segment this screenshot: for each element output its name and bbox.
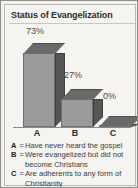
legend-item-c: C = Are adherents to any form of Christi…: [11, 169, 135, 188]
value-label-a: 73%: [26, 26, 44, 36]
value-label-b: 27%: [64, 70, 82, 80]
bar-a: [23, 53, 55, 127]
category-axis-labels: A B C: [9, 128, 135, 141]
legend-separator-c: =: [18, 169, 25, 178]
chart-inner-frame: Status of Evangelization 73% 27%: [4, 4, 136, 186]
bar-b-side-face: [93, 99, 103, 127]
legend-text-a: Have never heard the gospel: [25, 141, 135, 150]
value-label-c: 0%: [103, 91, 116, 101]
legend-text-b: Were evangelized but did not become Chri…: [25, 150, 135, 169]
chart-legend: A = Have never heard the gospel B = Were…: [11, 141, 135, 188]
legend-key-c: C: [11, 169, 18, 178]
category-label-c: C: [104, 128, 122, 138]
legend-text-c: Are adherents to any form of Christianit…: [25, 169, 135, 188]
bar-b-front-face: [61, 99, 93, 127]
category-label-a: A: [28, 128, 46, 138]
chart-figure: Status of Evangelization 73% 27%: [0, 0, 138, 188]
bar-b: [61, 99, 93, 127]
legend-key-a: A: [11, 141, 18, 150]
chart-title: Status of Evangelization: [11, 10, 113, 20]
legend-key-b: B: [11, 150, 18, 159]
legend-item-b: B = Were evangelized but did not become …: [11, 150, 135, 169]
legend-separator-a: =: [18, 141, 25, 150]
legend-item-a: A = Have never heard the gospel: [11, 141, 135, 150]
bar-a-front-face: [23, 53, 55, 127]
legend-separator-b: =: [18, 150, 25, 159]
category-label-b: B: [66, 128, 84, 138]
plot-area: 73% 27% 0%: [9, 24, 135, 128]
